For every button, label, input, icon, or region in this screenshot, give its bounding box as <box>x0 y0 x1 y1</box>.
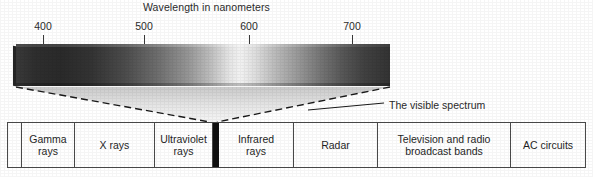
band-cell: Gamma rays <box>22 123 75 167</box>
band-cell: Infrared rays <box>219 123 294 167</box>
band-cell: AC circuits <box>511 123 585 167</box>
electromagnetic-spectrum-figure: Wavelength in nanometers 400500600700 Th… <box>0 0 593 177</box>
band-cell: Television and radio broadcast bands <box>378 123 511 167</box>
band-cell-spacer <box>8 123 22 167</box>
callout-leader-line <box>308 103 384 110</box>
band-cell: Radar <box>294 123 378 167</box>
spectrum-band-table: Gamma raysX raysUltraviolet raysInfrared… <box>7 122 586 168</box>
visible-spectrum-callout: The visible spectrum <box>389 99 485 111</box>
wedge-fill <box>16 87 390 122</box>
band-cell: X rays <box>75 123 155 167</box>
band-cell: Ultraviolet rays <box>155 123 213 167</box>
